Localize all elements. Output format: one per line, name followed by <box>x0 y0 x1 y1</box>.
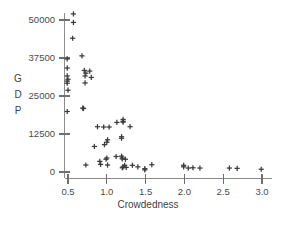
data-point <box>259 167 264 172</box>
x-tick-label: 2.5 <box>217 186 230 197</box>
x-tick-label: 1.0 <box>100 186 113 197</box>
y-tick-label: 25000 <box>29 90 55 101</box>
data-point <box>89 75 94 80</box>
data-point <box>114 154 119 159</box>
data-point <box>190 165 195 170</box>
data-point <box>97 159 102 164</box>
data-point <box>81 106 86 111</box>
x-tick-group: 0.51.01.52.02.53.0 <box>61 174 268 198</box>
y-axis-title-char: D <box>14 89 21 100</box>
data-point <box>95 124 100 129</box>
data-point <box>70 36 75 41</box>
x-tick-label: 2.0 <box>178 186 191 197</box>
data-point <box>107 124 112 129</box>
data-point <box>65 73 70 78</box>
y-axis-group: 012500250003750050000 <box>29 13 70 178</box>
x-tick-label: 0.5 <box>61 186 74 197</box>
data-point <box>114 120 119 125</box>
data-point <box>79 53 84 58</box>
y-tick-label: 12500 <box>29 128 55 139</box>
data-point <box>135 164 140 169</box>
data-point <box>120 120 125 125</box>
x-axis-title: Crowdedness <box>117 199 178 210</box>
y-tick-label: 50000 <box>29 14 55 25</box>
data-point-group <box>65 11 264 172</box>
scatter-chart-figure: 012500250003750050000 0.51.01.52.02.53.0… <box>0 0 283 225</box>
data-point <box>65 65 70 70</box>
data-point <box>186 165 191 170</box>
data-point <box>98 162 103 167</box>
data-point <box>105 162 110 167</box>
data-point <box>71 20 76 25</box>
data-point <box>127 124 132 129</box>
data-point <box>65 56 70 61</box>
data-point <box>92 144 97 149</box>
data-point <box>82 73 87 78</box>
data-point <box>82 80 87 85</box>
y-tick-label: 37500 <box>29 52 55 63</box>
data-point <box>130 163 135 168</box>
data-point <box>71 11 76 16</box>
x-axis-group: 0.51.01.52.02.53.0 <box>61 174 272 198</box>
data-point <box>65 109 70 114</box>
x-tick-label: 1.5 <box>139 186 152 197</box>
x-tick-label: 3.0 <box>255 186 268 197</box>
data-point <box>149 162 154 167</box>
data-point <box>101 124 106 129</box>
data-point <box>83 162 88 167</box>
y-axis-title: GDP <box>14 73 22 116</box>
data-point <box>235 166 240 171</box>
data-point <box>197 165 202 170</box>
y-axis-title-char: G <box>14 73 22 84</box>
data-point <box>65 88 70 93</box>
plot-area: 012500250003750050000 0.51.01.52.02.53.0… <box>0 0 283 225</box>
y-tick-label: 0 <box>50 166 55 177</box>
data-point <box>227 165 232 170</box>
y-axis-title-char: P <box>15 105 22 116</box>
